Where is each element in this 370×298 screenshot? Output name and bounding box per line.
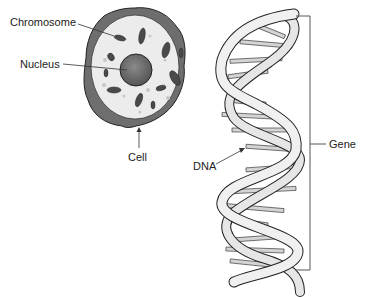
dna-helix: [221, 14, 300, 292]
dna-label: DNA: [193, 160, 217, 172]
gene-label: Gene: [329, 138, 356, 150]
cell-arrow-head: [137, 127, 142, 132]
dna-leader-line: [216, 150, 242, 164]
chromosome-label: Chromosome: [10, 16, 76, 28]
cell-dna-diagram: Chromosome Nucleus Cell: [0, 0, 370, 298]
dna-arrow-head: [239, 148, 245, 153]
cell-label: Cell: [128, 151, 147, 163]
nucleus-label: Nucleus: [20, 58, 60, 70]
